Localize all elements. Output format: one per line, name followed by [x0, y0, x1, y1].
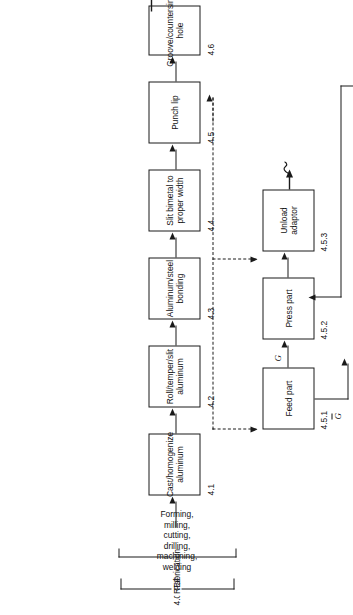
- connector-451-exception-v: [314, 398, 348, 399]
- break-symbol-icon-end-sub: [278, 175, 292, 191]
- box-4-5-3-label: Unload adaptor: [278, 192, 299, 248]
- connector-451-452: [287, 345, 288, 367]
- box-4-2-label: Roll/temper/slit aluminum: [164, 348, 185, 404]
- gate-label-fail-text: G: [332, 413, 342, 420]
- box-4-5-1: Feed part: [262, 367, 314, 429]
- tag-4-5-3: 4.5.3: [318, 232, 328, 251]
- box-4-5: Punch lip: [148, 81, 200, 143]
- dashed-rail-down-mid: [212, 258, 256, 259]
- return-loop-up: [340, 85, 353, 86]
- box-4-5-2-label: Press part: [283, 289, 293, 327]
- box-4-5-label: Punch lip: [169, 95, 179, 129]
- tag-4-3: 4.3: [205, 307, 215, 319]
- flowchart-canvas: 4.0 REF Fabrication Forming, milling, cu…: [0, 0, 353, 615]
- gate-label-fail: G: [332, 413, 342, 420]
- arrowhead-45-expand: [206, 94, 212, 101]
- tag-4-5: 4.5: [205, 131, 215, 143]
- arrowhead-43-44: [169, 232, 175, 239]
- dashed-rail-horizontal: [212, 97, 213, 429]
- arrowhead-42-43: [169, 320, 175, 327]
- tag-4-5-1: 4.5.1: [318, 410, 328, 429]
- connector-44-45: [175, 149, 176, 169]
- tag-4-4: 4.4: [205, 219, 215, 231]
- connector-451-exception-h: [347, 363, 348, 399]
- connector-42-43: [175, 325, 176, 345]
- arrowhead-451-452: [281, 340, 287, 347]
- box-4-2: Roll/temper/slit aluminum: [148, 345, 200, 407]
- box-4-1: Cast/homogenize aluminum: [148, 433, 200, 495]
- return-loop-into-452: [314, 296, 341, 297]
- gate-label-pass: G: [272, 355, 282, 362]
- arrowhead-dashed-mid: [250, 257, 257, 263]
- box-4-5-2: Press part: [262, 277, 314, 339]
- connector-452-453: [287, 257, 288, 277]
- arrowhead-41-42: [169, 408, 175, 415]
- box-4-5-1-label: Feed part: [283, 380, 293, 416]
- arrowhead-44-45: [169, 144, 175, 151]
- tag-4-5-2: 4.5.2: [318, 320, 328, 339]
- tag-4-1: 4.1: [205, 483, 215, 495]
- arrowhead-451-exception: [341, 358, 347, 365]
- tag-4-2: 4.2: [205, 395, 215, 407]
- box-4-6-label: Groove/countersink hole: [164, 0, 185, 66]
- arrowhead-dashed-into-451: [250, 427, 257, 433]
- arrowhead-return-into-452: [308, 295, 315, 301]
- box-4-3-label: Aluminum/steel bonding: [164, 259, 185, 316]
- connector-43-44: [175, 237, 176, 257]
- arrowhead-452-453: [281, 252, 287, 259]
- return-loop-top: [340, 85, 341, 297]
- break-symbol-icon-end-main: [140, 0, 154, 13]
- connector-ref-to-41: [175, 501, 176, 527]
- box-4-5-3: Unload adaptor: [262, 189, 314, 251]
- dashed-rail-down-left: [212, 428, 256, 429]
- box-4-4: Slit bimetal to proper width: [148, 169, 200, 231]
- box-4-4-label: Slit bimetal to proper width: [164, 172, 185, 228]
- connector-41-42: [175, 413, 176, 433]
- tag-4-6: 4.6: [205, 43, 215, 55]
- box-4-1-label: Cast/homogenize aluminum: [164, 431, 185, 496]
- ref-description: Forming, milling, cutting, drilling, mac…: [118, 527, 234, 553]
- box-4-3: Aluminum/steel bonding: [148, 257, 200, 319]
